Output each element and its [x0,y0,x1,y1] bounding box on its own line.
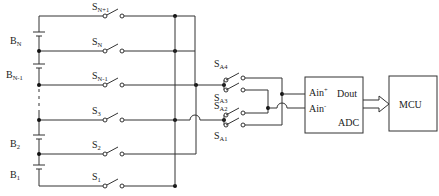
selector-label-sa4: SA4 [214,58,228,70]
circuit-diagram: BN BN-1 B2 B1 SN+1 SN SN-1 [0,0,439,196]
switch-label-s2: S2 [92,139,101,151]
battery-label-b1: B1 [10,169,20,181]
switch-label-s3: S3 [92,105,101,117]
switch-label-sn1: SN+1 [92,1,109,13]
battery-label-bn-1: BN-1 [6,69,23,81]
switch-label-sn-1: SN-1 [92,70,108,82]
mcu-block: MCU [389,76,437,131]
switch-label-sn: SN [92,36,103,48]
adc-block: Ain+ Ain- Dout ADC [305,77,363,133]
bus-even [195,16,196,154]
adc-dout: Dout [337,88,357,99]
data-arrow-icon [363,96,389,112]
battery-label-b2: B2 [10,138,20,150]
battery-stack [33,16,45,186]
adc-ain-minus: Ain- [309,102,326,114]
selector-label-sa1: SA1 [214,130,228,142]
switch-row-sn [37,44,195,53]
switch-row-s1 [39,179,177,188]
adc-name: ADC [338,117,359,128]
switch-label-s1: S1 [92,171,101,183]
switch-row-sn1 [39,9,195,18]
switch-row-s2 [37,147,196,156]
battery-label-bn: BN [10,35,22,47]
mcu-name: MCU [399,99,423,110]
selector-switch-group [222,73,305,127]
